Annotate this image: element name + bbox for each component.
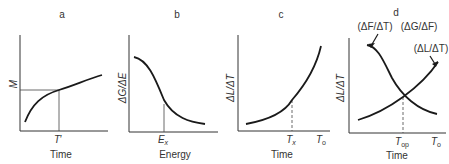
panel-a-xmarker: T′ [54, 134, 62, 145]
panel-c-xmarker: Tx [286, 134, 296, 146]
panel-d-label: d [393, 7, 399, 18]
panel-a-axes [20, 35, 108, 131]
panel-a-curve [25, 75, 102, 122]
panel-d-arrow-2 [430, 56, 435, 64]
panel-d-ylabel: ΔL/ΔT [335, 73, 346, 103]
panel-b-ylabel: ΔG/ΔE [117, 72, 128, 104]
panel-d-falling-curve [367, 45, 437, 114]
figure: a M T′ Time b ΔG/ΔE Ex Energy c ΔL/ΔT Tx… [0, 0, 449, 164]
panel-b-curve [134, 57, 205, 124]
panel-b-axes [129, 35, 218, 132]
panel-c-ylabel: ΔL/ΔT [225, 73, 236, 103]
panel-d: d (ΔF/ΔT) (ΔG/ΔF) (ΔL/ΔT) ΔL/ΔT Top To T… [335, 7, 448, 161]
panel-a: a M T′ Time [8, 9, 108, 160]
panel-a-xlabel: Time [50, 149, 72, 160]
panel-d-xmarker: Top [395, 136, 409, 149]
panel-d-curve-label-dG: (ΔG/ΔF) [401, 21, 438, 32]
panel-c-curve [246, 46, 321, 124]
panel-b-xmarker: Ex [158, 134, 169, 146]
panel-d-curve-label-dL: (ΔL/ΔT) [414, 43, 448, 54]
panel-c-axes [238, 35, 330, 131]
panel-d-xend: To [431, 136, 441, 148]
panel-a-label: a [59, 9, 65, 20]
panel-c-xend: To [316, 134, 326, 146]
panel-a-ylabel: M [8, 79, 19, 88]
panel-d-curve-label-dF: (ΔF/ΔT) [357, 21, 392, 32]
panel-d-xlabel: Time [386, 150, 408, 161]
panel-b-label: b [174, 9, 180, 20]
panel-a-guide-lines [20, 90, 59, 131]
panel-c: c ΔL/ΔT Tx To Time [225, 9, 330, 160]
panel-b-xlabel: Energy [159, 149, 191, 160]
panel-c-label: c [279, 9, 284, 20]
panel-b: b ΔG/ΔE Ex Energy [117, 9, 218, 160]
panel-c-xlabel: Time [271, 149, 293, 160]
